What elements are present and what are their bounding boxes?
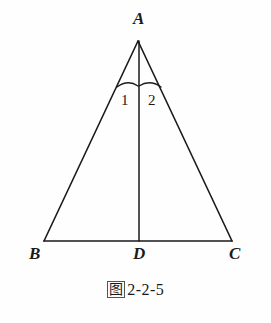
segment-ab [44,41,138,241]
vertex-label-b: B [29,245,40,262]
segment-ac [138,41,232,241]
vertex-label-d: D [133,245,145,262]
vertex-label-a: A [133,10,144,27]
geometry-canvas [0,0,271,323]
vertex-label-c: C [229,245,240,262]
geometry-figure: A B C D 1 2 图2-2-5 [0,0,271,323]
caption-number: 2-2-5 [127,281,164,298]
angle-1-arc-icon [117,83,138,87]
figure-caption: 图2-2-5 [0,281,271,299]
caption-prefix: 图 [107,281,126,298]
angle-label-2: 2 [148,93,156,108]
angle-label-1: 1 [121,93,129,108]
